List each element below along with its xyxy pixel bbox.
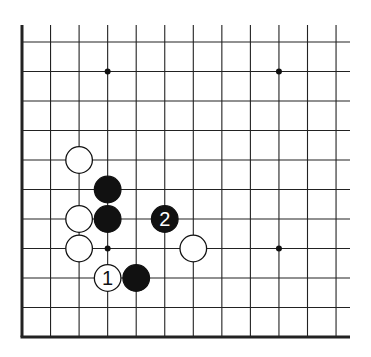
black-stone — [123, 265, 150, 292]
stone-icon — [66, 206, 93, 233]
black-stone — [94, 206, 121, 233]
star-point-icon — [276, 246, 282, 252]
move-number-label: 1 — [102, 267, 113, 289]
stone-icon — [66, 147, 93, 174]
white-stone — [66, 147, 93, 174]
white-stone — [180, 235, 207, 262]
star-point-icon — [105, 246, 111, 252]
star-point-icon — [105, 69, 111, 75]
white-stone — [66, 206, 93, 233]
stone-icon — [94, 206, 121, 233]
stone-icon — [180, 235, 207, 262]
white-stone — [66, 235, 93, 262]
stone-icon — [123, 265, 150, 292]
go-board: 21 — [0, 0, 371, 357]
stone-icon — [94, 176, 121, 203]
black-stone — [94, 176, 121, 203]
white-stone: 1 — [94, 265, 121, 292]
move-number-label: 2 — [159, 208, 170, 230]
star-point-icon — [276, 69, 282, 75]
black-stone: 2 — [151, 206, 178, 233]
stone-icon — [66, 235, 93, 262]
board-grid — [21, 25, 351, 337]
